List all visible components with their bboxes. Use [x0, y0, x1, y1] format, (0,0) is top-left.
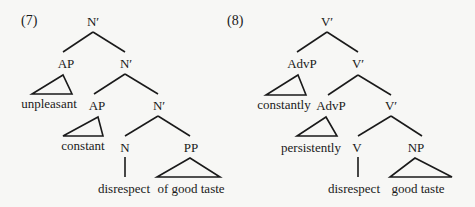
- leaf-disrespect: disrespect: [328, 182, 380, 195]
- node-ap: AP: [89, 99, 106, 112]
- ap-triangle: [63, 117, 103, 136]
- node-root: N′: [87, 15, 99, 28]
- np-triangle: [390, 158, 452, 177]
- node-advp: AdvP: [287, 57, 317, 70]
- leaf-unpleasant: unpleasant: [21, 97, 77, 110]
- node-n: N: [120, 141, 129, 154]
- node-advp: AdvP: [316, 99, 346, 112]
- node-vbar: V′: [352, 57, 364, 70]
- pp-triangle: [157, 158, 220, 177]
- node-vbar: V′: [385, 99, 397, 112]
- leaf-persistently: persistently: [281, 141, 341, 154]
- advp-triangle: [297, 117, 337, 136]
- example-number: (7): [21, 14, 37, 28]
- node-nbar: N′: [120, 57, 132, 70]
- node-np: NP: [408, 141, 425, 154]
- leaf-good-taste: good taste: [391, 182, 444, 195]
- node-root: V′: [321, 15, 333, 28]
- ap-triangle: [32, 75, 72, 94]
- leaf-constantly: constantly: [257, 98, 310, 111]
- node-v: V: [352, 141, 361, 154]
- leaf-disrespect: disrespect: [98, 182, 150, 195]
- node-pp: PP: [184, 141, 198, 154]
- leaf-constant: constant: [61, 139, 104, 152]
- leaf-of-good-taste: of good taste: [157, 182, 224, 195]
- example-number: (8): [227, 14, 243, 28]
- node-nbar: N′: [153, 99, 165, 112]
- node-ap: AP: [58, 57, 75, 70]
- advp-triangle: [266, 75, 306, 95]
